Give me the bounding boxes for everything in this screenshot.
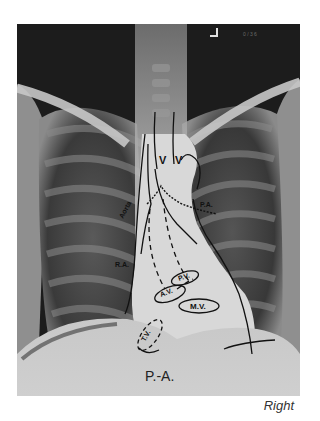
chest-xray-image: 0 / 3 6 — [17, 24, 300, 396]
pulmonic-valve-label: P.V. — [177, 272, 190, 282]
vena-label-right: V — [175, 154, 183, 166]
pulmonary-artery-label: P.A. — [200, 201, 213, 208]
tricuspid-valve-label: T.V. — [140, 329, 152, 342]
view-label: P.-A. — [145, 368, 174, 384]
right-atrium-label: R.A. — [115, 261, 129, 268]
aortic-valve-label: A.V. — [159, 287, 174, 298]
aorta-label: Aorta — [118, 200, 133, 220]
figure-caption: Right — [264, 398, 294, 413]
vena-label-left: V — [159, 154, 167, 166]
mitral-valve-label: M.V. — [190, 302, 206, 311]
